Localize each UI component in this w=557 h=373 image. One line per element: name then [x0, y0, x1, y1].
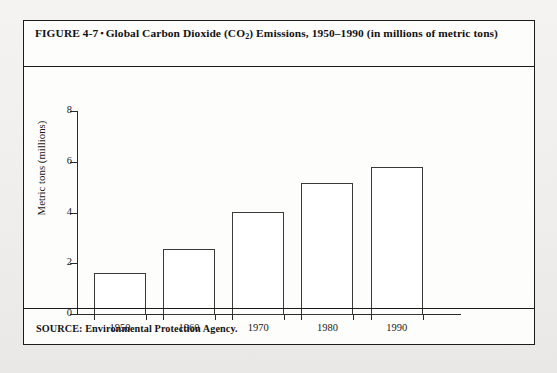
x-tick [163, 314, 164, 320]
x-tick [232, 314, 233, 320]
x-tick [353, 314, 354, 320]
x-tick [146, 314, 147, 320]
x-tick [301, 314, 302, 320]
source-divider [24, 308, 534, 309]
x-tick [371, 314, 372, 320]
bar-1970 [232, 212, 284, 315]
y-axis-title: Metric tons (millions) [35, 78, 47, 258]
bar-1990 [371, 167, 423, 315]
figure-title-main: Global Carbon Dioxide (CO [106, 27, 246, 39]
x-tick [94, 314, 95, 320]
plot-area: Metric tons (millions) 02468 19501960197… [24, 66, 534, 309]
source-note: SOURCE: Environmental Protection Agency. [36, 323, 238, 334]
figure-number: FIGURE 4-7 [35, 27, 98, 39]
x-tick [423, 314, 424, 320]
bullet-icon: ▪ [98, 28, 105, 38]
bar-1980 [301, 183, 353, 315]
figure-title-rest: ) Emissions, 1950–1990 (in millions of m… [249, 27, 498, 39]
figure-box: FIGURE 4-7▪Global Carbon Dioxide (CO2) E… [23, 20, 535, 345]
x-tick [215, 314, 216, 320]
y-tick-label: 6 [50, 155, 72, 166]
page-canvas: FIGURE 4-7▪Global Carbon Dioxide (CO2) E… [0, 0, 557, 373]
x-tick-label-1990: 1990 [367, 322, 427, 333]
x-tick-label-1980: 1980 [297, 322, 357, 333]
y-tick-label: 4 [50, 206, 72, 217]
bar-1960 [163, 249, 215, 315]
y-tick-label: 2 [50, 256, 72, 267]
x-tick [284, 314, 285, 320]
figure-title: FIGURE 4-7▪Global Carbon Dioxide (CO2) E… [35, 26, 524, 44]
y-tick-label: 8 [50, 104, 72, 115]
bar-group [77, 112, 461, 315]
